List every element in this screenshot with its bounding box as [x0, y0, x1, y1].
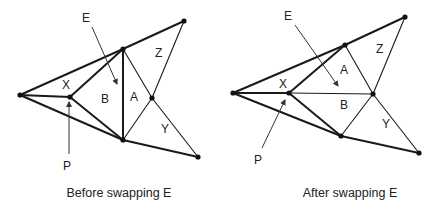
- label-y: Y: [382, 117, 390, 131]
- vertex-p: [67, 94, 72, 99]
- vertex: [120, 46, 125, 51]
- label-z: Z: [155, 46, 162, 60]
- vertex: [370, 91, 375, 96]
- vertex: [230, 90, 235, 95]
- label-y: Y: [161, 122, 169, 136]
- vertex: [149, 95, 154, 100]
- label-e: E: [82, 11, 90, 25]
- label-a: A: [130, 90, 138, 104]
- vertex: [120, 137, 125, 142]
- label-b: B: [340, 98, 348, 112]
- edge-outer: [233, 45, 345, 93]
- label-p: P: [254, 153, 262, 167]
- edge-swap-figure: E X B A Z Y P Before swapping E: [0, 0, 437, 211]
- edge-outer: [345, 17, 405, 45]
- pointer-arrow-e: [92, 27, 117, 84]
- label-p: P: [63, 159, 71, 173]
- caption-after: After swapping E: [303, 186, 398, 200]
- vertex: [342, 42, 347, 47]
- vertex: [416, 150, 421, 155]
- label-x: X: [279, 77, 287, 91]
- edge-left-to-p: [20, 95, 70, 97]
- edge-outer: [20, 49, 123, 95]
- edge-outer: [233, 93, 341, 136]
- vertex: [338, 133, 343, 138]
- caption-before: Before swapping E: [67, 186, 172, 200]
- edge-p-to-top: [70, 49, 123, 97]
- diagram-before: E X B A Z Y P Before swapping E: [17, 11, 200, 200]
- vertex: [402, 14, 407, 19]
- edge-p-to-top: [289, 45, 345, 93]
- edge-top-to-right: [345, 45, 373, 94]
- label-e: E: [284, 9, 292, 23]
- edge-p-to-bottom: [70, 97, 123, 140]
- pointer-arrow-p: [262, 100, 285, 148]
- vertex: [17, 92, 22, 97]
- label-x: X: [62, 78, 70, 92]
- diagram-after: E X B A Z Y P After swapping E: [230, 9, 421, 200]
- vertex: [181, 18, 186, 23]
- vertex-p: [286, 90, 291, 95]
- edge-e: [289, 93, 373, 94]
- edge-p-to-bottom: [289, 93, 341, 136]
- edge-outer: [123, 21, 184, 49]
- vertex: [195, 154, 200, 159]
- edge-bottom-to-right: [123, 98, 152, 140]
- label-b: B: [101, 92, 109, 106]
- label-z: Z: [376, 42, 383, 56]
- label-a: A: [340, 63, 348, 77]
